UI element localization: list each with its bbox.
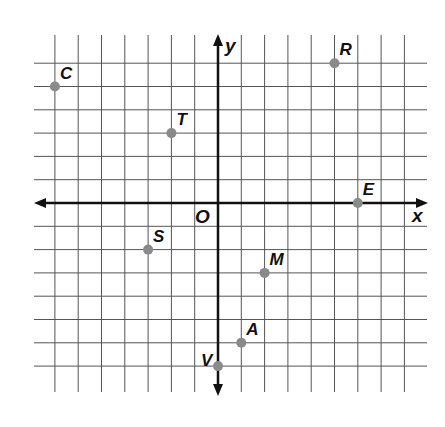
point-r — [330, 58, 340, 68]
point-label-e: E — [363, 180, 375, 199]
point-label-a: A — [245, 320, 258, 339]
point-label-r: R — [340, 40, 353, 59]
point-v — [213, 361, 223, 371]
x-axis-label: x — [411, 205, 424, 226]
point-m — [260, 268, 270, 278]
point-label-c: C — [60, 64, 73, 83]
y-axis-up-arrow-icon — [213, 34, 223, 46]
point-label-v: V — [201, 351, 214, 370]
grid-lines — [34, 35, 427, 392]
x-axis-left-arrow-icon — [34, 198, 46, 208]
axes: x y O — [34, 34, 428, 396]
points: CTRESMAV — [50, 40, 375, 371]
point-e — [353, 198, 363, 208]
y-axis-down-arrow-icon — [213, 384, 223, 396]
origin-label: O — [195, 206, 210, 227]
point-label-t: T — [176, 110, 188, 129]
point-label-s: S — [153, 227, 165, 246]
point-c — [50, 82, 60, 92]
point-a — [236, 338, 246, 348]
coordinate-plane: x y O CTRESMAV — [0, 0, 445, 427]
point-t — [166, 128, 176, 138]
point-s — [143, 245, 153, 255]
point-label-m: M — [270, 250, 285, 269]
y-axis-label: y — [224, 35, 237, 56]
